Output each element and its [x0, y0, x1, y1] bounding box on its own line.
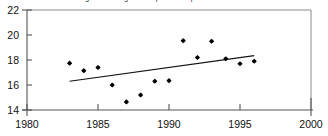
data-point-core [167, 79, 170, 82]
data-point-core [125, 100, 128, 103]
chart-container: Average annual highest temperature repor… [0, 0, 328, 136]
data-point-core [253, 60, 256, 63]
data-point-core [96, 66, 99, 69]
data-point-core [196, 56, 199, 59]
y-tick-label-20: 20 [7, 29, 19, 41]
data-point-group [67, 38, 257, 104]
plot-frame [27, 10, 311, 110]
y-tick-label-16: 16 [7, 79, 19, 91]
y-tick-label-14: 14 [7, 104, 19, 116]
x-tick-label-1980: 1980 [15, 118, 39, 130]
x-tick-label-1990: 1990 [157, 118, 181, 130]
data-point-core [182, 39, 185, 42]
data-point-core [224, 57, 227, 60]
x-tick-label-1995: 1995 [228, 118, 252, 130]
y-axis: 22 20 18 16 14 [7, 4, 32, 116]
data-point-core [139, 93, 142, 96]
data-point-core [68, 61, 71, 64]
y-tick-label-18: 18 [7, 54, 19, 66]
data-point-core [111, 83, 114, 86]
x-tick-label-2000: 2000 [299, 118, 323, 130]
data-point-core [210, 40, 213, 43]
y-tick-label-22: 22 [7, 4, 19, 16]
x-tick-label-1985: 1985 [86, 118, 110, 130]
data-point-core [82, 69, 85, 72]
data-point-core [153, 80, 156, 83]
scatter-plot: 22 20 18 16 14 1980 1985 1990 1995 2000 [0, 0, 328, 136]
data-point-core [238, 62, 241, 65]
x-axis: 1980 1985 1990 1995 2000 [15, 98, 323, 130]
